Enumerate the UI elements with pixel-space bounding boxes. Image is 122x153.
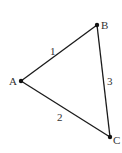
- triangle-graph: A B C 1 2 3: [0, 0, 122, 153]
- node-a-label: A: [9, 75, 17, 87]
- edge-a-b-label: 1: [50, 45, 56, 57]
- node-c-label: C: [113, 134, 120, 146]
- node-b-dot: [95, 23, 99, 27]
- edge-a-c: [21, 81, 110, 137]
- node-c-dot: [108, 135, 112, 139]
- node-a-dot: [19, 79, 23, 83]
- edge-a-c-label: 2: [57, 111, 63, 123]
- edge-a-b: [21, 25, 97, 81]
- edge-b-c-label: 3: [107, 75, 113, 87]
- node-b-label: B: [101, 19, 108, 31]
